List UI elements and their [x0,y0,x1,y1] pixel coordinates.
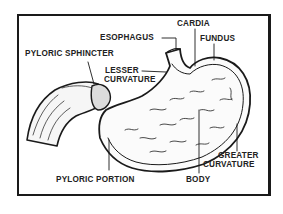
leader-pyloric-sphincter [88,62,94,84]
label-cardia: CARDIA [177,19,210,28]
pyloric-sphincter [91,84,110,110]
label-pyloric-sphincter: PYLORIC SPHINCTER [25,49,114,58]
leader-esophagus [162,38,176,50]
label-greater-curvature-line2: CURVATURE [203,160,255,169]
leader-lesser-curvature [142,71,166,72]
label-body: BODY [186,175,210,184]
label-lesser-curvature-line2: CURVATURE [104,75,156,84]
label-pyloric-portion: PYLORIC PORTION [56,175,135,184]
label-esophagus: ESOPHAGUS [100,33,154,42]
label-fundus: FUNDUS [200,34,235,43]
